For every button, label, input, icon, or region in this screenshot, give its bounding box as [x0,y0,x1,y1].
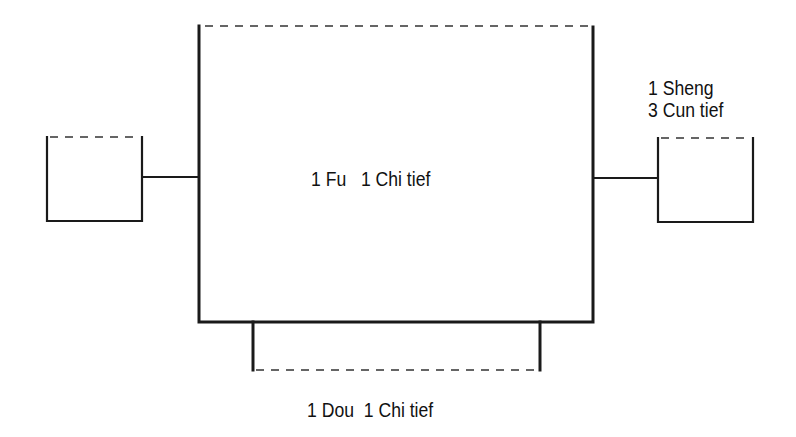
right-handle-walls [658,138,753,222]
right-handle-label-line1: 1 Sheng [648,77,714,99]
bottom-base-label: 1 Dou 1 Chi tief [307,399,433,421]
left-handle-walls [47,137,142,221]
diagram-canvas [0,0,796,437]
main-vessel-label: 1 Fu 1 Chi tief [311,168,430,190]
right-handle-label-line2: 3 Cun tief [648,99,723,121]
